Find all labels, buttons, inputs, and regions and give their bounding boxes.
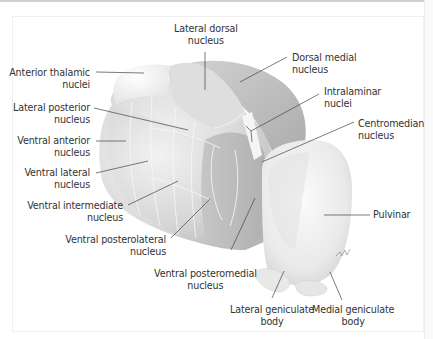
label-ventral-posterolateral-nucleus: Ventral posterolateral nucleus (65, 234, 166, 257)
label-anterior-thalamic-nuclei: Anterior thalamic nuclei (9, 67, 90, 90)
label-centromedian-nucleus: Centromedian nucleus (358, 118, 424, 141)
medial-geniculate-shape (296, 280, 327, 296)
label-ventral-anterior-nucleus: Ventral anterior nucleus (17, 135, 90, 158)
label-dorsal-medial-nucleus: Dorsal medial nucleus (292, 52, 356, 75)
label-medial-geniculate-body: Medial geniculate body (312, 304, 394, 327)
label-lateral-geniculate-body: Lateral geniculate body (230, 304, 314, 327)
label-pulvinar: Pulvinar (373, 209, 410, 221)
label-ventral-intermediate-nucleus: Ventral intermediate nucleus (27, 200, 123, 223)
label-ventral-lateral-nucleus: Ventral lateral nucleus (24, 167, 90, 190)
label-lateral-posterior-nucleus: Lateral posterior nucleus (13, 102, 90, 125)
label-lateral-dorsal-nucleus: Lateral dorsal nucleus (174, 23, 238, 46)
label-ventral-posteromedial-nucleus: Ventral posteromedial nucleus (154, 268, 257, 291)
label-intralaminar-nuclei: Intralaminar nuclei (324, 86, 381, 109)
